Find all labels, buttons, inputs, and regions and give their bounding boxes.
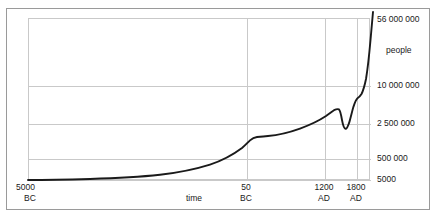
x-tick-label-1200ad: 1200 AD [306,182,342,203]
x-tick-label-1800ad: 1800 AD [338,182,374,203]
y-axis-title: people [386,45,412,55]
y-tick-label-5000: 5000 [377,174,396,184]
x-tick-era-1200ad: AD [306,193,342,204]
x-tick-label-50bc: 50 BC [228,182,264,203]
chart-figure: · · · · · · · · · · · · · · · · · · · · … [0,0,436,215]
x-tick-era-5000bc: BC [16,193,60,204]
y-tick-label-2500000: 2 500 000 [377,118,415,128]
y-tick-label-56000000: 56 000 000 [377,14,420,24]
x-axis-title: time [186,193,202,203]
x-tick-era-50bc: BC [228,193,264,204]
population-curve [28,10,374,182]
population-line [28,12,373,180]
x-tick-year-5000bc: 5000 [16,182,60,193]
top-cut-caption: · · · · · · · · · · · · · · · · · · · · … [4,0,432,3]
y-tick-label-500000: 500 000 [377,153,408,163]
x-tick-label-5000bc: 5000 BC [12,182,60,203]
y-tick-label-10000000: 10 000 000 [377,80,420,90]
x-tick-year-50bc: 50 [228,182,264,193]
x-tick-era-1800ad: AD [338,193,374,204]
x-tick-year-1200ad: 1200 [306,182,342,193]
x-tick-year-1800ad: 1800 [338,182,374,193]
